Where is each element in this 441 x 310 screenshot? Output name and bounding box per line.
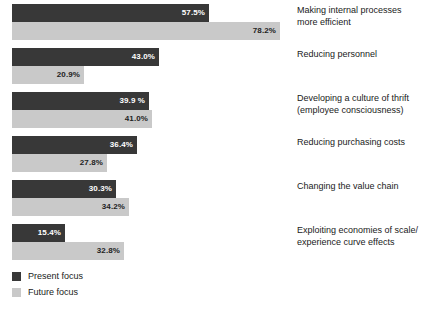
category-label: Developing a culture of thrift (employee… — [297, 93, 439, 116]
legend-swatch-present — [12, 272, 21, 281]
bar-value-label: 32.8% — [88, 242, 120, 260]
bar-value-label: 36.4% — [101, 136, 133, 154]
legend-label: Present focus — [28, 268, 83, 284]
legend-label: Future focus — [28, 284, 78, 300]
category-label: Exploiting economies of scale/ experienc… — [297, 225, 439, 248]
bar-value-label: 34.2% — [93, 198, 125, 216]
bar-chart: 57.5%78.2%Making internal processes more… — [0, 0, 441, 310]
bar-value-label: 39.9 % — [113, 92, 145, 110]
bar-value-label: 27.8% — [71, 154, 103, 172]
bar-future-focus — [12, 22, 280, 40]
legend-swatch-future — [12, 288, 21, 297]
bar-value-label: 57.5% — [173, 4, 205, 22]
bar-value-label: 30.3% — [80, 180, 112, 198]
bar-row: 27.8% — [12, 154, 422, 172]
category-label: Changing the value chain — [297, 181, 439, 193]
legend-item[interactable]: Future focus — [12, 284, 212, 300]
bar-value-label: 41.0% — [116, 110, 148, 128]
category-label: Reducing personnel — [297, 49, 439, 61]
bar-row: 20.9% — [12, 66, 422, 84]
category-label: Reducing purchasing costs — [297, 137, 439, 149]
legend-item[interactable]: Present focus — [12, 268, 212, 284]
bar-value-label: 20.9% — [48, 66, 80, 84]
category-label: Making internal processes more efficient — [297, 5, 439, 28]
bar-value-label: 43.0% — [123, 48, 155, 66]
chart-legend: Present focusFuture focus — [12, 268, 212, 300]
bar-value-label: 15.4% — [29, 224, 61, 242]
bar-row: 34.2% — [12, 198, 422, 216]
bar-value-label: 78.2% — [244, 22, 276, 40]
